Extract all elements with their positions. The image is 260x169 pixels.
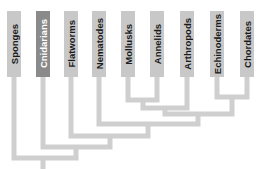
taxon-label: Echinoderms bbox=[212, 14, 223, 74]
taxon-label: Arthropods bbox=[182, 18, 193, 70]
taxon-annelids: Annelids bbox=[150, 11, 164, 77]
taxon-label: Chordates bbox=[242, 21, 253, 68]
taxon-nematodes: Nematodes bbox=[92, 11, 106, 77]
taxon-label: Annelids bbox=[152, 24, 163, 64]
taxon-echinoderms: Echinoderms bbox=[210, 11, 224, 77]
taxon-cnidarians: Cnidarians bbox=[36, 11, 50, 77]
branch-line bbox=[128, 77, 157, 100]
taxon-label: Flatworms bbox=[66, 20, 77, 68]
cladogram: Sponges Cnidarians Flatworms Nematodes M… bbox=[0, 0, 260, 169]
taxon-mollusks: Mollusks bbox=[121, 11, 135, 77]
taxon-arthropods: Arthropods bbox=[180, 11, 194, 77]
taxon-flatworms: Flatworms bbox=[64, 11, 78, 77]
branch-line bbox=[217, 77, 247, 97]
branch-line bbox=[71, 77, 148, 136]
taxon-label: Nematodes bbox=[94, 18, 105, 69]
branch-line bbox=[143, 77, 187, 108]
taxon-label: Sponges bbox=[9, 24, 20, 64]
taxon-label: Cnidarians bbox=[38, 19, 49, 68]
taxon-sponges: Sponges bbox=[7, 11, 21, 77]
taxon-label: Mollusks bbox=[123, 24, 134, 65]
taxon-chordates: Chordates bbox=[240, 11, 254, 77]
